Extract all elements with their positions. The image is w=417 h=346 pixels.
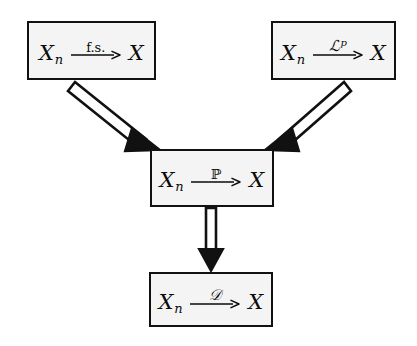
right-term-almost-sure: X (129, 43, 144, 64)
arrow-shaft-icon (190, 177, 242, 187)
relation-almost-sure: Xn f.s. X (39, 38, 144, 64)
relation-distribution: Xn 𝒟 X (159, 287, 264, 313)
node-box-almost-sure: Xn f.s. X (27, 21, 156, 80)
left-subscript-distribution: n (174, 301, 183, 316)
mapping-arrow-lp: ℒp (312, 38, 364, 63)
left-subscript-almost-sure: n (55, 52, 64, 67)
mapping-arrow-almost-sure: f.s. (70, 38, 122, 63)
mapping-arrow-distribution: 𝒟 (189, 287, 241, 312)
right-term-distribution: X (248, 292, 263, 313)
implication-arrow-lp-to-probability (265, 82, 351, 151)
left-term-probability: Xn (160, 170, 184, 191)
arrow-shaft-icon (70, 50, 122, 60)
left-term-almost-sure: Xn (39, 43, 63, 64)
left-subscript-lp: n (297, 52, 306, 67)
left-subscript-probability: n (175, 179, 184, 194)
right-term-lp: X (371, 43, 386, 64)
node-box-lp: Xn ℒp X (271, 21, 396, 80)
arrow-shaft-icon (312, 50, 364, 60)
relation-lp: Xn ℒp X (281, 38, 386, 64)
arrow-shaft-icon (189, 299, 241, 309)
implication-arrow-probability-to-distribution (199, 208, 223, 271)
node-box-probability: Xn ℙ X (150, 149, 274, 207)
left-term-distribution: Xn (159, 292, 183, 313)
mapping-arrow-probability: ℙ (190, 165, 242, 190)
arrow-label-lp-superscript: p (341, 37, 347, 48)
convergence-implication-diagram: Xn f.s. X Xn ℒp X (0, 0, 417, 346)
left-term-lp: Xn (281, 43, 305, 64)
node-box-distribution: Xn 𝒟 X (149, 272, 273, 327)
implication-arrow-almost-sure-to-probability (68, 82, 160, 151)
right-term-probability: X (249, 170, 264, 191)
relation-probability: Xn ℙ X (160, 165, 265, 191)
